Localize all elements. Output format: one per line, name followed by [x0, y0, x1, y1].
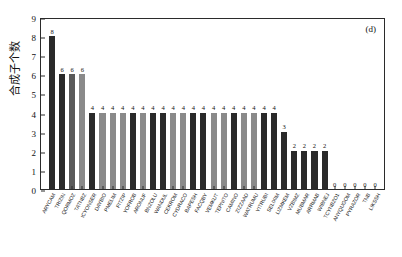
bar-value-label: 6 — [81, 67, 84, 75]
y-tick-mark — [41, 133, 45, 134]
x-label-cell: YOFROB — [127, 191, 137, 255]
bar-item: 4 — [108, 19, 118, 189]
bar-item: 0 — [370, 19, 380, 189]
x-label-cell: FITZIP — [117, 191, 127, 255]
bar-item: 8 — [47, 19, 57, 189]
bar-item: 0 — [350, 19, 360, 189]
x-label-cell: WATRUMU — [249, 191, 259, 255]
chart-figure: 合成子个数 (d) 0123456789 8666444444444444444… — [0, 0, 402, 257]
bar-item: 2 — [320, 19, 330, 189]
bar-value-label: 4 — [232, 105, 235, 113]
x-label-cell: WANDUL — [158, 191, 168, 255]
bar-value-label: 4 — [151, 105, 154, 113]
bar-item: 4 — [209, 19, 219, 189]
x-label-cell: WIBNEJ — [320, 191, 330, 255]
y-tick-mark — [41, 76, 45, 77]
x-label-cell: ARYCAM — [46, 191, 56, 255]
bar-value-label: 4 — [141, 105, 144, 113]
bar-item: 4 — [188, 19, 198, 189]
bar-item: 3 — [279, 19, 289, 189]
bar-item: 0 — [340, 19, 350, 189]
bar-item: 4 — [239, 19, 249, 189]
bar-item: 4 — [259, 19, 269, 189]
x-label-cell: TATNBZ — [76, 191, 86, 255]
bar-value-label: 3 — [283, 124, 286, 132]
bar-value-label: 4 — [131, 105, 134, 113]
y-tick-mark — [41, 95, 45, 96]
bar-value-label: 6 — [61, 67, 64, 75]
x-label-cell: YITRUBI — [259, 191, 269, 255]
x-label-cell: TRIZIN — [56, 191, 66, 255]
bar-item: 4 — [158, 19, 168, 189]
bar-item: 2 — [309, 19, 319, 189]
bar-value-label: 4 — [172, 105, 175, 113]
bar-value-label: 4 — [91, 105, 94, 113]
x-label-cell: MUBMAR — [300, 191, 310, 255]
x-label-cell: ZIZZAAD — [239, 191, 249, 255]
y-tick-label: 6 — [32, 72, 42, 81]
x-label-cell: SELIXIM — [269, 191, 279, 255]
bar-item: 4 — [229, 19, 239, 189]
x-label-cell: TNB — [361, 191, 371, 255]
bar-value-label: 4 — [212, 105, 215, 113]
x-label-cell: TCYNBZO1 — [330, 191, 340, 255]
plot-area: (d) 0123456789 8666444444444444444444432… — [40, 18, 385, 190]
bar: 6 — [59, 74, 65, 189]
bar-value-label: 4 — [111, 105, 114, 113]
bar-value-label: 4 — [192, 105, 195, 113]
y-tick-mark — [41, 171, 45, 172]
bar-item: 4 — [249, 19, 259, 189]
x-label-cell: BAPESH — [188, 191, 198, 255]
y-tick-label: 5 — [32, 91, 42, 100]
bar-value-label: 4 — [262, 105, 265, 113]
bar-item: 4 — [168, 19, 178, 189]
x-label-cell: CAMINO — [229, 191, 239, 255]
bar-item: 4 — [118, 19, 128, 189]
bar: 6 — [69, 74, 75, 189]
x-label-cell: BNZOLU — [148, 191, 158, 255]
y-tick-label: 2 — [32, 148, 42, 157]
x-label-cell: CEKROM — [168, 191, 178, 255]
y-tick-mark — [41, 114, 45, 115]
x-label-cell: ANYQUGOM — [341, 191, 351, 255]
x-label-cell: CYDRACO — [178, 191, 188, 255]
x-label-cell: ARRMAB — [310, 191, 320, 255]
x-label-cell: ARONUF — [137, 191, 147, 255]
bar-item: 4 — [87, 19, 97, 189]
bar-item: 4 — [269, 19, 279, 189]
x-label-cell: LIZMKEM — [280, 191, 290, 255]
x-label-cell: TEPNITO — [219, 191, 229, 255]
bar-item: 0 — [330, 19, 340, 189]
bar-item: 4 — [97, 19, 107, 189]
bar: 8 — [49, 36, 55, 189]
y-tick-label: 3 — [32, 129, 42, 138]
y-tick-label: 4 — [32, 110, 42, 119]
bar-value-label: 2 — [313, 143, 316, 151]
x-label-cell: QORMOZ — [66, 191, 76, 255]
bar-item: 4 — [198, 19, 208, 189]
y-tick-label: 1 — [32, 167, 42, 176]
bar-value-label: 2 — [303, 143, 306, 151]
y-tick-label: 7 — [32, 53, 42, 62]
bar-item: 6 — [67, 19, 77, 189]
bar-item: 4 — [148, 19, 158, 189]
bar-value-label: 4 — [161, 105, 164, 113]
y-tick-label: 9 — [32, 15, 42, 24]
bar-item: 6 — [77, 19, 87, 189]
bar-value-label: 2 — [323, 143, 326, 151]
bar-item: 4 — [138, 19, 148, 189]
bar-value-label: 4 — [252, 105, 255, 113]
bar-value-label: 4 — [222, 105, 225, 113]
bar-value-label: 4 — [272, 105, 275, 113]
bar-value-label: 4 — [182, 105, 185, 113]
x-label-cell: ICYONSER — [87, 191, 97, 255]
y-tick-mark — [41, 57, 45, 58]
y-tick-label: 8 — [32, 34, 42, 43]
y-tick-mark — [41, 152, 45, 153]
x-label-cell: LIKSSH — [371, 191, 381, 255]
x-axis-labels: ARYCAMTRIZINQORMOZTATNBZICYONSERDAYBIOPM… — [46, 191, 381, 255]
x-label-cell: FACQBY — [198, 191, 208, 255]
bar-item: 4 — [178, 19, 188, 189]
bar-item: 0 — [360, 19, 370, 189]
y-tick-label: 0 — [32, 187, 42, 196]
